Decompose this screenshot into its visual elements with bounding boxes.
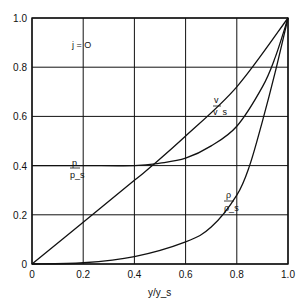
y-tick-label: 0 <box>21 259 27 270</box>
label-p-den: p_s <box>70 170 85 180</box>
label-v-den: v_s <box>213 107 228 117</box>
label-v-num: v <box>214 95 219 105</box>
tick-labels: 00.20.40.60.81.000.20.40.60.81.0 <box>13 13 295 280</box>
x-tick-label: 0.4 <box>127 269 141 280</box>
y-tick-label: 0.6 <box>13 111 27 122</box>
annotation: j = O <box>71 40 91 50</box>
x-axis-label: y/y_s <box>148 287 171 298</box>
y-tick-label: 0.8 <box>13 62 27 73</box>
x-tick-label: 0 <box>29 269 35 280</box>
label-rho-den: ρ_s <box>224 203 239 213</box>
y-tick-label: 0.2 <box>13 210 27 221</box>
y-tick-label: 1.0 <box>13 13 27 24</box>
velocity-curve <box>32 18 288 264</box>
grid <box>32 18 288 264</box>
x-tick-label: 0.6 <box>179 269 193 280</box>
x-tick-label: 0.2 <box>76 269 90 280</box>
pressure-curve <box>32 18 288 166</box>
label-p-num: p <box>72 158 77 168</box>
x-tick-label: 0.8 <box>230 269 244 280</box>
plot-frame <box>32 18 288 264</box>
density-curve <box>32 18 288 264</box>
x-tick-label: 1.0 <box>281 269 295 280</box>
curves <box>32 18 288 264</box>
chart: 00.20.40.60.81.000.20.40.60.81.0 j = O y… <box>0 0 307 306</box>
y-tick-label: 0.4 <box>13 161 27 172</box>
label-rho-num: ρ <box>226 190 231 200</box>
